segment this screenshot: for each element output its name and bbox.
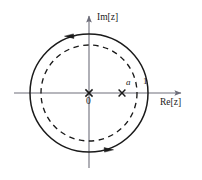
pole-a-label: a (126, 78, 131, 87)
figure-canvas (0, 0, 202, 180)
unit-circle-label-text: 1 (143, 76, 148, 86)
pole-a-label-text: a (126, 77, 131, 87)
real-axis-label: Re[z] (160, 98, 181, 108)
origin-label: 0 (86, 97, 91, 107)
real-axis-label-text: Re[z] (160, 97, 181, 107)
unit-circle-label: 1 (143, 77, 148, 86)
imaginary-axis-label: Im[z] (97, 13, 118, 23)
origin-label-text: 0 (86, 96, 91, 106)
imaginary-axis-label-text: Im[z] (97, 12, 118, 22)
complex-plane-contour-figure: Im[z] Re[z] 0 a 1 (0, 0, 202, 180)
